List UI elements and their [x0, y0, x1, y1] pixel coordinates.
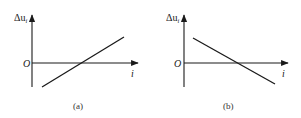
- origin-label: O: [174, 58, 181, 69]
- decreasing-line: [193, 38, 275, 84]
- caption-a: (a): [73, 101, 83, 111]
- diagram-canvas: Δui O i (a) Δui O i (b): [0, 0, 301, 118]
- panel-b: Δui O i (b): [166, 12, 288, 111]
- origin-label: O: [23, 58, 30, 69]
- x-axis-label: i: [282, 68, 285, 79]
- x-axis-label: i: [131, 68, 134, 79]
- y-axis-label: Δui: [14, 12, 27, 24]
- y-axis-label: Δui: [166, 12, 179, 24]
- caption-b: (b): [223, 101, 234, 111]
- panel-a: Δui O i (a): [14, 12, 138, 111]
- increasing-line: [42, 37, 124, 87]
